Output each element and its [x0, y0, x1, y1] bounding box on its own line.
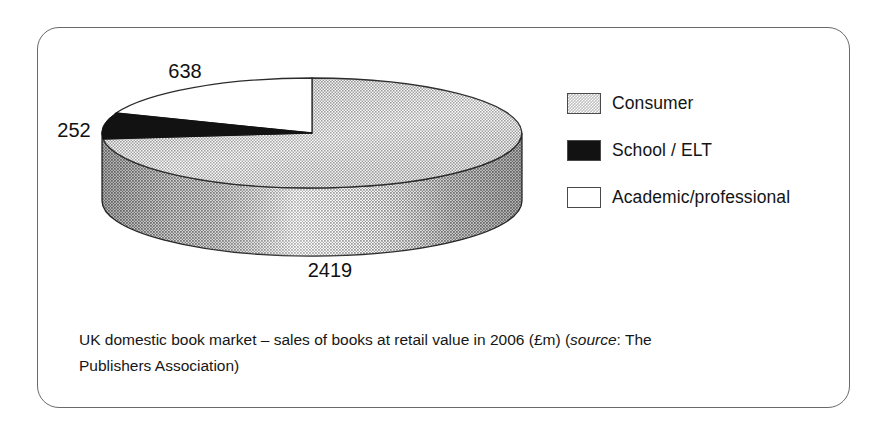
caption-source-label: source: [570, 331, 617, 348]
data-label-school: 252: [57, 119, 90, 141]
legend-label-consumer: Consumer: [612, 93, 694, 114]
figure-caption: UK domestic book market – sales of books…: [79, 327, 719, 379]
legend-item-academic-professional: Academic/professional: [567, 186, 827, 208]
white-swatch-icon: [567, 187, 601, 208]
legend-label-academic-professional: Academic/professional: [612, 187, 790, 208]
caption-main-text: UK domestic book market – sales of books…: [79, 331, 570, 348]
chart-legend: Consumer School / ELT Academic/professio…: [567, 92, 827, 233]
grey-swatch-icon: [567, 93, 601, 114]
data-label-academic: 638: [168, 60, 201, 82]
pie-top-slices: [102, 78, 522, 188]
legend-item-school-elt: School / ELT: [567, 139, 827, 161]
legend-label-school-elt: School / ELT: [612, 140, 712, 161]
data-label-consumer: 2419: [308, 259, 353, 281]
legend-item-consumer: Consumer: [567, 92, 827, 114]
black-swatch-icon: [567, 140, 601, 161]
